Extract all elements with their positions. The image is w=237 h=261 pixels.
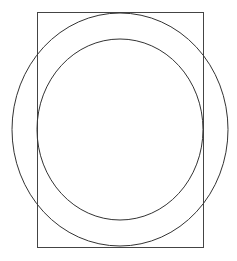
inner-ellipse [37, 39, 203, 220]
bounding-rectangle [38, 13, 204, 248]
outer-ellipse [12, 13, 228, 246]
diagram-canvas [0, 0, 237, 261]
